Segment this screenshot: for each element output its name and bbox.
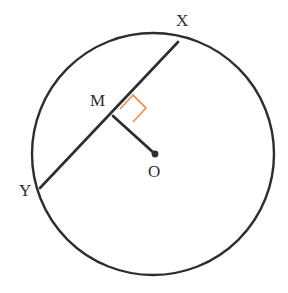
- point-label-m: M: [90, 92, 105, 109]
- point-label-x: X: [176, 12, 188, 29]
- geometry-diagram: X M O Y: [0, 0, 288, 293]
- geometry-canvas: [0, 0, 288, 293]
- center-point-dot: [152, 151, 159, 158]
- point-label-o: O: [148, 163, 160, 180]
- point-label-y: Y: [19, 182, 31, 199]
